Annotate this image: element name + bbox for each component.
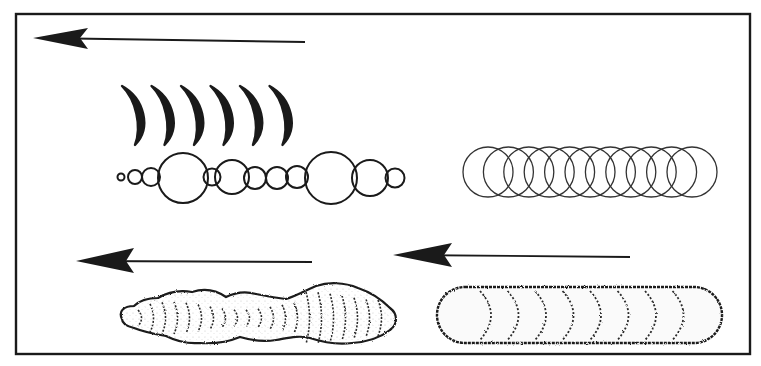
regular-circle	[606, 147, 656, 197]
irregular-circle-chain	[118, 152, 405, 204]
regular-circle	[626, 147, 676, 197]
chain-circle	[204, 169, 221, 186]
chain-circle	[128, 170, 142, 184]
regular-overlapping-circles	[463, 147, 717, 197]
regular-circle	[463, 147, 513, 197]
stippled-blob	[121, 283, 396, 344]
regular-circle	[545, 147, 595, 197]
regular-circle	[504, 147, 554, 197]
arrow-top-left	[33, 28, 305, 49]
crescent-mark	[240, 86, 262, 145]
chain-circle	[118, 174, 125, 181]
crescent-mark	[181, 86, 203, 145]
diagram-canvas	[0, 0, 761, 366]
regular-circle	[647, 147, 697, 197]
stippled-capsule	[437, 287, 722, 343]
crescent-mark	[122, 86, 144, 145]
crescent-marks	[122, 86, 292, 145]
arrow-bottom-left	[76, 248, 312, 273]
regular-circle	[524, 147, 574, 197]
regular-circle	[667, 147, 717, 197]
chain-circle	[305, 152, 357, 204]
crescent-mark	[152, 86, 174, 145]
crescent-mark	[211, 86, 233, 145]
diagram-figure	[0, 0, 761, 366]
chain-circle	[158, 153, 208, 203]
regular-circle	[565, 147, 615, 197]
regular-circle	[483, 147, 533, 197]
crescent-mark	[270, 86, 292, 145]
chain-circle	[266, 167, 288, 189]
chain-circle	[244, 167, 266, 189]
regular-circle	[585, 147, 635, 197]
arrow-bottom-right	[393, 243, 630, 267]
